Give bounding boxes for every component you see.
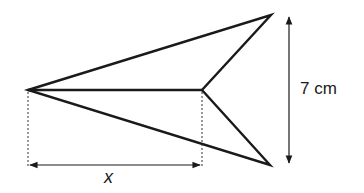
- height-label: 7 cm: [300, 80, 337, 97]
- width-label: x: [104, 168, 113, 186]
